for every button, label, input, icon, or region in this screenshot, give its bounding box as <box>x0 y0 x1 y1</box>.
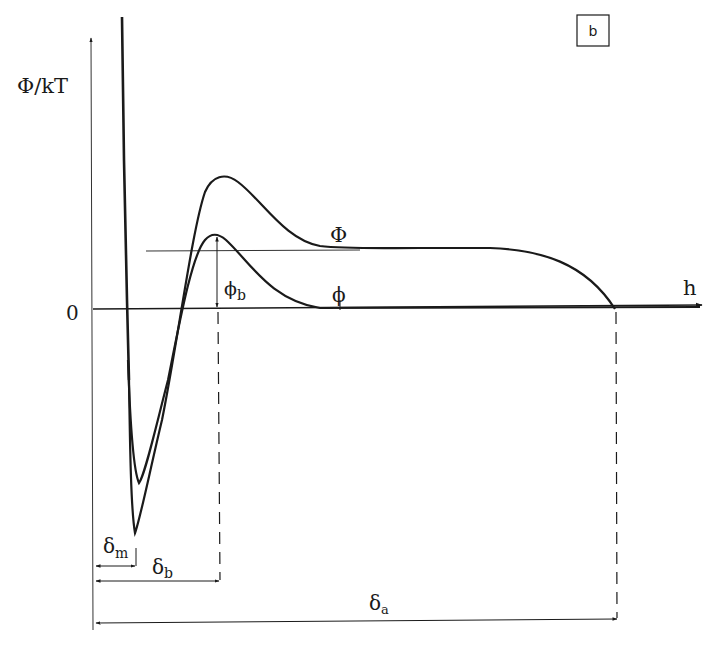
delta-a-dashed-line <box>616 312 617 618</box>
curve-label-pair: ϕ <box>332 283 346 307</box>
barrier-height-label: ϕb <box>224 277 246 303</box>
zero-label: 0 <box>66 301 79 325</box>
y-axis-label: Φ/kT <box>17 74 68 98</box>
plateau-reference-line <box>146 250 360 251</box>
repulsive-wall <box>122 17 129 380</box>
delta-a-label: δa <box>369 591 389 617</box>
delta-m-label: δm <box>103 534 128 561</box>
y-axis <box>91 38 93 630</box>
panel-label: b <box>589 23 598 39</box>
panel-label-box: b <box>577 15 609 46</box>
interaction-potential-diagram: b Φ/kT 0 h Φ ϕ ϕb δm δb δa <box>0 0 719 656</box>
curve-pair-potential <box>128 235 700 483</box>
delta-b-label: δb <box>152 555 173 581</box>
curve-total-potential <box>129 177 615 533</box>
delta-a-arrow <box>96 619 617 623</box>
x-axis-label: h <box>683 276 697 300</box>
delta-b-dashed-line <box>218 312 220 580</box>
curve-label-total: Φ <box>330 223 347 247</box>
